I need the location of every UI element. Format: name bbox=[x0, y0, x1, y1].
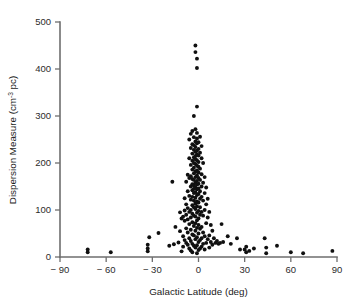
y-tick-label: 400 bbox=[35, 63, 51, 74]
y-tick-label: 300 bbox=[35, 110, 51, 121]
data-point bbox=[203, 175, 207, 179]
data-point bbox=[198, 205, 202, 209]
data-point bbox=[183, 209, 187, 213]
data-point bbox=[275, 244, 279, 248]
data-point bbox=[190, 250, 194, 254]
data-point bbox=[181, 245, 185, 249]
x-tick-label: 30 bbox=[239, 264, 250, 275]
data-point bbox=[264, 251, 268, 255]
data-point bbox=[189, 208, 193, 212]
data-point bbox=[195, 235, 199, 239]
svg-text:Dispersion Measure (cm-3 pc): Dispersion Measure (cm-3 pc) bbox=[7, 76, 18, 204]
data-point bbox=[197, 182, 201, 186]
data-point bbox=[203, 208, 207, 212]
data-point bbox=[206, 216, 210, 220]
data-point bbox=[195, 57, 199, 61]
data-point bbox=[195, 66, 199, 70]
data-point bbox=[197, 160, 201, 164]
data-point bbox=[189, 228, 193, 232]
scatter-plot-figure: 0100200300400500 − 90− 60− 300306090 Gal… bbox=[0, 0, 355, 306]
data-point bbox=[198, 178, 202, 182]
x-axis-title: Galactic Latitude (deg) bbox=[149, 286, 248, 297]
data-point bbox=[177, 240, 181, 244]
data-point bbox=[197, 217, 201, 221]
data-point bbox=[204, 241, 208, 245]
data-point bbox=[184, 213, 188, 217]
data-point bbox=[207, 210, 211, 214]
data-point bbox=[200, 144, 204, 148]
data-point bbox=[301, 251, 305, 255]
data-point bbox=[221, 240, 225, 244]
data-point bbox=[201, 214, 205, 218]
data-point bbox=[186, 189, 190, 193]
data-point bbox=[184, 202, 188, 206]
data-point bbox=[146, 243, 150, 247]
data-point bbox=[201, 231, 205, 235]
data-point bbox=[207, 246, 211, 250]
data-point bbox=[200, 195, 204, 199]
data-point bbox=[192, 114, 196, 118]
data-point bbox=[204, 185, 208, 189]
data-point bbox=[206, 197, 210, 201]
data-point bbox=[157, 231, 161, 235]
y-axis-title-prefix: Dispersion Measure (cm bbox=[7, 98, 18, 204]
y-axis-title: Dispersion Measure (cm-3 pc) bbox=[7, 76, 18, 204]
data-point bbox=[195, 105, 199, 109]
data-point bbox=[184, 226, 188, 230]
data-point bbox=[212, 236, 216, 240]
data-point bbox=[200, 156, 204, 160]
data-point bbox=[167, 244, 171, 248]
data-point bbox=[198, 167, 202, 171]
data-point bbox=[86, 250, 90, 254]
data-point bbox=[183, 196, 187, 200]
data-point bbox=[178, 210, 182, 214]
data-point bbox=[263, 236, 267, 240]
data-point bbox=[186, 243, 190, 247]
y-tick-label: 0 bbox=[46, 251, 51, 262]
data-point bbox=[289, 250, 293, 254]
data-point bbox=[198, 135, 202, 139]
data-point bbox=[203, 248, 207, 252]
data-point bbox=[201, 181, 205, 185]
data-point bbox=[200, 172, 204, 176]
data-point bbox=[180, 249, 184, 253]
x-tick-label: − 30 bbox=[143, 264, 162, 275]
y-axis-title-suffix: pc) bbox=[7, 76, 18, 92]
data-point bbox=[197, 147, 201, 151]
data-point bbox=[201, 161, 205, 165]
data-point bbox=[186, 231, 190, 235]
data-point bbox=[170, 180, 174, 184]
data-point bbox=[201, 199, 205, 203]
data-point bbox=[193, 127, 197, 131]
data-point bbox=[195, 131, 199, 135]
data-point bbox=[330, 249, 334, 253]
data-point bbox=[147, 235, 151, 239]
x-tick-label: 60 bbox=[286, 264, 297, 275]
data-point bbox=[193, 44, 197, 48]
data-point bbox=[200, 225, 204, 229]
plot-canvas: 0100200300400500 − 90− 60− 300306090 Gal… bbox=[0, 0, 355, 306]
data-point bbox=[203, 234, 207, 238]
x-axis-ticks: − 90− 60− 300306090 bbox=[51, 257, 343, 275]
data-point bbox=[238, 248, 242, 252]
data-point bbox=[247, 249, 251, 253]
data-point bbox=[252, 247, 256, 251]
data-point bbox=[204, 202, 208, 206]
data-point bbox=[244, 245, 248, 249]
data-point bbox=[187, 156, 191, 160]
data-point bbox=[173, 225, 177, 229]
data-point bbox=[178, 229, 182, 233]
data-point bbox=[197, 232, 201, 236]
data-point bbox=[235, 236, 239, 240]
data-point bbox=[146, 249, 150, 253]
data-point bbox=[109, 250, 113, 254]
data-point bbox=[206, 237, 210, 241]
data-point bbox=[203, 191, 207, 195]
data-point bbox=[204, 221, 208, 225]
data-point bbox=[198, 151, 202, 155]
data-point bbox=[181, 234, 185, 238]
data-point bbox=[197, 201, 201, 205]
data-point bbox=[197, 140, 201, 144]
data-point bbox=[172, 242, 176, 246]
data-point bbox=[220, 222, 224, 226]
